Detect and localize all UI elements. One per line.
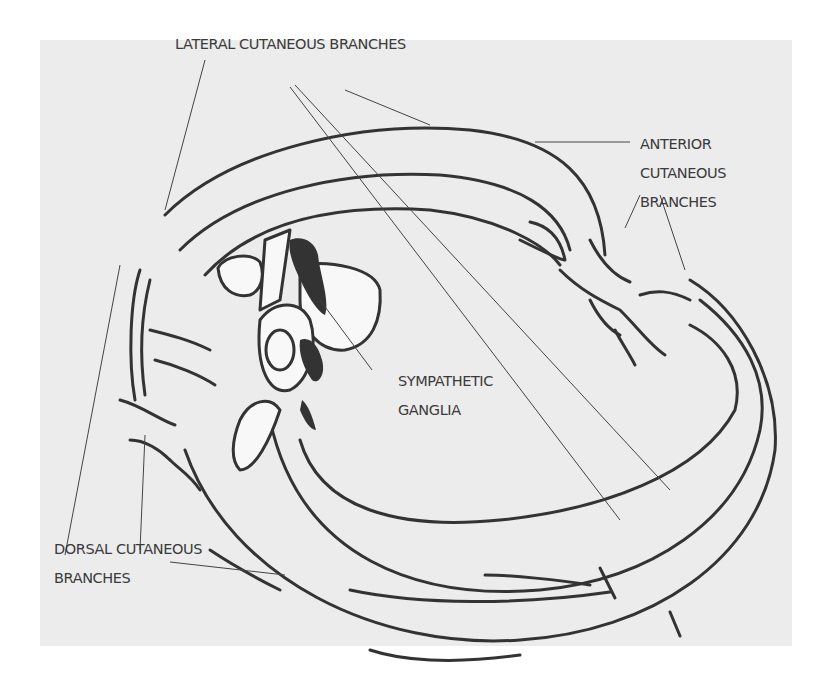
label-dorsal-cutaneous-branches: DORSAL CUTANEOUS BRANCHES	[54, 535, 202, 593]
upper-rib-inner	[180, 174, 570, 250]
rib-inner-loop	[300, 325, 737, 522]
label-sympathetic-line1: SYMPATHETIC	[398, 367, 493, 396]
leader-lateral-4	[345, 90, 430, 125]
label-anterior-line2: CUTANEOUS	[640, 159, 726, 188]
label-lateral-line1: LATERAL CUTANEOUS BRANCHES	[175, 30, 406, 59]
dorsal-branch-2	[142, 280, 150, 395]
label-lateral-cutaneous-branches: LATERAL CUTANEOUS BRANCHES	[175, 30, 406, 59]
label-dorsal-line2: BRANCHES	[54, 564, 202, 593]
leader-dorsal-2	[140, 435, 145, 550]
label-anterior-line3: BRANCHES	[640, 188, 726, 217]
label-sympathetic-line2: GANGLIA	[398, 396, 493, 425]
leader-dorsal-1	[65, 265, 120, 555]
label-anterior-cutaneous-branches: ANTERIOR CUTANEOUS BRANCHES	[640, 130, 726, 217]
label-sympathetic-ganglia: SYMPATHETIC GANGLIA	[398, 367, 493, 425]
leader-anterior-2	[625, 195, 640, 228]
label-anterior-line1: ANTERIOR	[640, 130, 726, 159]
vertebra-transverse-process	[218, 256, 262, 296]
dorsal-branch-1	[131, 270, 140, 400]
label-dorsal-line1: DORSAL CUTANEOUS	[54, 535, 202, 564]
upper-rib-outer	[165, 128, 605, 255]
